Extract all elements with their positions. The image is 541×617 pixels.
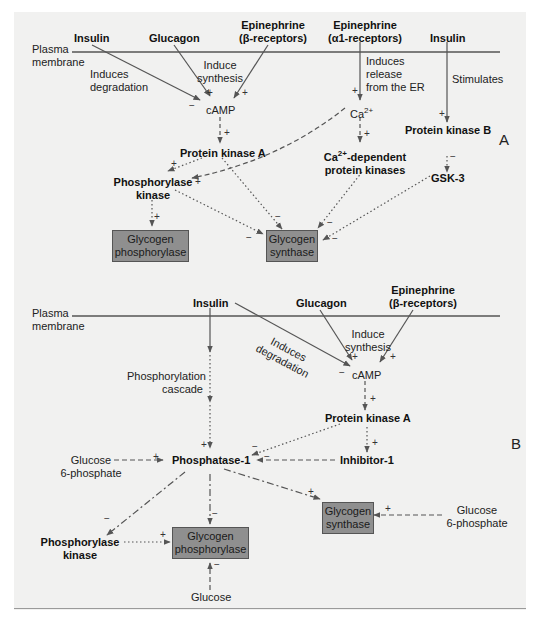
plasma-membrane-label-a: Plasma membrane	[32, 43, 85, 69]
sign-plus: +	[171, 159, 177, 169]
sign-plus: +	[207, 88, 213, 98]
sign-plus: +	[439, 109, 445, 119]
panel-letter-b: B	[511, 435, 521, 452]
node-ca-dependent-kinases-a: Ca2+-dependent protein kinases	[320, 147, 410, 177]
sign-plus: +	[308, 487, 314, 497]
sign-plus: +	[201, 440, 207, 450]
sign-minus: −	[189, 101, 195, 111]
node-inhibitor-1-b: Inhibitor-1	[340, 454, 394, 467]
sign-plus: +	[385, 504, 391, 514]
node-camp-b: cAMP	[352, 369, 381, 382]
sign-minus: −	[214, 560, 220, 570]
sign-minus: −	[212, 509, 218, 519]
plasma-membrane-label-b: Plasma membrane	[32, 307, 85, 333]
node-protein-kinase-b-a: Protein kinase B	[405, 124, 491, 137]
signal-insulin-a: Insulin	[74, 32, 109, 45]
box-glycogen-synthase-b: Glycogen synthase	[322, 502, 374, 534]
node-protein-kinase-a-b: Protein kinase A	[325, 412, 411, 425]
annotation-stimulates-a: Stimulates	[452, 73, 503, 86]
sign-plus: +	[352, 352, 358, 362]
signal-insulin-b: Insulin	[193, 297, 228, 310]
box-glycogen-phosphorylase-a: Glycogen phosphorylase	[112, 230, 189, 262]
node-phosphorylase-kinase-a: Phosphorylase kinase	[108, 176, 198, 202]
sign-plus: +	[352, 86, 358, 96]
node-glucose-b: Glucose	[191, 591, 231, 604]
signal-epinephrine-beta-b: Epinephrine (β-receptors)	[378, 284, 468, 310]
sign-plus: +	[153, 452, 159, 462]
sign-plus: +	[242, 88, 248, 98]
node-protein-kinase-a-a: Protein kinase A	[180, 147, 266, 160]
sign-minus: −	[252, 442, 258, 452]
sign-minus: −	[327, 218, 333, 228]
sign-plus: +	[370, 394, 376, 404]
sign-minus: −	[104, 514, 110, 524]
sign-plus: +	[364, 129, 370, 139]
box-glycogen-synthase-a: Glycogen synthase	[266, 230, 318, 262]
annotation-induces-degradation-a: Induces degradation	[90, 68, 148, 94]
signal-insulin2-a: Insulin	[430, 32, 465, 45]
sign-minus: −	[450, 152, 456, 162]
node-phosphorylase-kinase-b: Phosphorylase kinase	[36, 536, 124, 562]
sign-plus: +	[160, 530, 166, 540]
sign-minus: −	[275, 212, 281, 222]
sign-minus: −	[264, 452, 270, 462]
node-gsk3-a: GSK-3	[431, 172, 465, 185]
annotation-induces-release-a: Induces release from the ER	[366, 55, 425, 94]
node-glucose-6-phosphate-left-b: Glucose 6-phosphate	[58, 454, 124, 480]
sign-minus: −	[246, 233, 252, 243]
sign-plus: +	[390, 352, 396, 362]
sign-minus: −	[332, 234, 338, 244]
box-glycogen-phosphorylase-b: Glycogen phosphorylase	[172, 527, 249, 559]
sign-plus: +	[372, 438, 378, 448]
node-glucose-6-phosphate-right-b: Glucose 6-phosphate	[444, 504, 510, 530]
node-phosphatase-1-b: Phosphatase-1	[172, 454, 250, 467]
sign-minus: −	[339, 368, 345, 378]
annotation-induce-synthesis-a: Induce synthesis	[196, 59, 244, 85]
panel-letter-a: A	[499, 131, 509, 148]
sign-plus: +	[195, 177, 201, 187]
signal-glucagon-b: Glucagon	[296, 297, 347, 310]
sign-plus: +	[224, 128, 230, 138]
annotation-phosphorylation-cascade-b: Phosphorylation cascade	[127, 370, 203, 396]
signal-epinephrine-beta-a: Epinephrine (β-receptors)	[228, 19, 318, 45]
node-camp-a: cAMP	[206, 104, 235, 117]
node-calcium-a: Ca2+	[350, 104, 373, 121]
signal-glucagon-a: Glucagon	[149, 32, 200, 45]
sign-plus: +	[154, 212, 160, 222]
signal-epinephrine-alpha-a: Epinephrine (α1-receptors)	[320, 19, 410, 45]
